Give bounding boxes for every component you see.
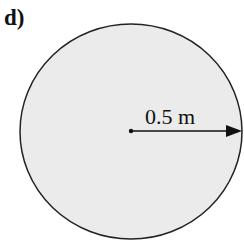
panel-label: d) [4,6,24,29]
circle-diagram [0,0,244,241]
radius-label: 0.5 m [145,106,195,128]
